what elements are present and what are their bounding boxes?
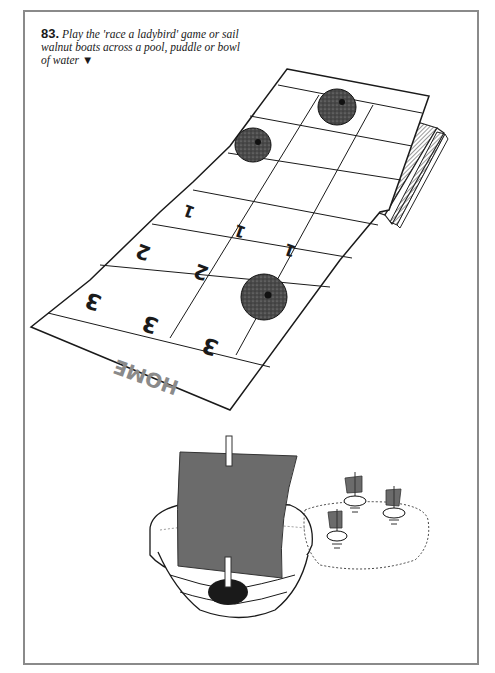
small-boat bbox=[344, 472, 366, 512]
small-boat bbox=[327, 509, 347, 548]
ladybird-icon bbox=[318, 89, 356, 125]
small-boat bbox=[383, 486, 405, 524]
ladybird-icon bbox=[235, 128, 271, 162]
puddle-pool bbox=[304, 502, 429, 569]
walnut-boat-large bbox=[150, 436, 312, 618]
race-board bbox=[31, 69, 429, 410]
ladybird-icon bbox=[241, 274, 287, 320]
illustration: 1 1 1 2 2 3 3 3 HOME bbox=[0, 0, 495, 673]
